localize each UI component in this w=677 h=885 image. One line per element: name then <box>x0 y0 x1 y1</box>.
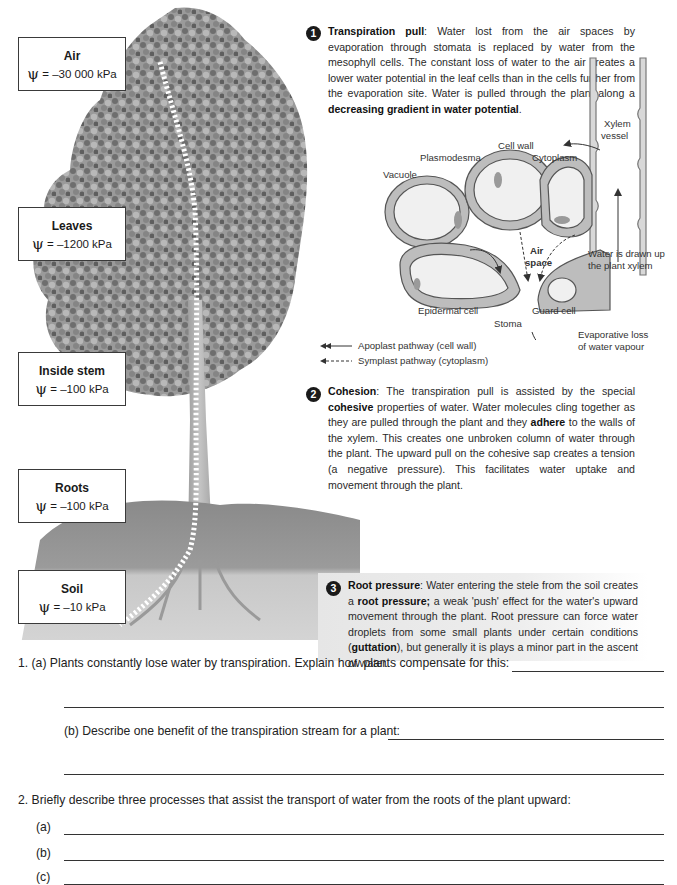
dashed-arrow-icon <box>320 357 352 365</box>
guard-cell-label: Guard cell <box>532 305 576 317</box>
soil-label: Soil <box>19 582 125 596</box>
tree-illustration <box>0 0 360 640</box>
cohesion-heading: Cohesion <box>328 385 376 397</box>
psi-symbol: ψ <box>27 65 39 83</box>
psi-symbol: ψ <box>35 380 47 398</box>
soil-potential-box: Soil ψ = –10 kPa <box>18 570 126 624</box>
psi-symbol: ψ <box>32 235 44 253</box>
psi-symbol: ψ <box>35 497 47 515</box>
question-2b-label: (b) <box>36 846 51 860</box>
leaf-cell-diagram <box>370 50 677 340</box>
answer-line-2a[interactable] <box>64 834 664 835</box>
section-1-badge: 1 <box>306 26 321 41</box>
air-potential-value: = –30 000 kPa <box>42 68 117 80</box>
stoma-label: Stoma <box>494 318 522 330</box>
evaporative-loss-label-line2: of water vapour <box>578 341 644 353</box>
legend-symplast: Symplast pathway (cytoplasm) <box>320 355 488 366</box>
xylem-label-line2: vessel <box>601 130 628 142</box>
psi-symbol: ψ <box>38 598 50 616</box>
roots-potential-box: Roots ψ = –100 kPa <box>18 469 126 523</box>
air-space-label-line2: space <box>525 257 552 269</box>
section-3-badge: 3 <box>326 581 341 596</box>
xylem-label-line1: Xylem <box>604 118 631 130</box>
legend-apoplast: Apoplast pathway (cell wall) <box>320 340 476 351</box>
stem-potential-value: = –100 kPa <box>50 383 109 395</box>
question-2: 2. Briefly describe three processes that… <box>18 793 571 807</box>
section-2-badge: 2 <box>306 387 321 402</box>
answer-line-1b-1[interactable] <box>388 739 664 740</box>
air-label: Air <box>19 49 125 63</box>
leaves-potential-box: Leaves ψ = –1200 kPa <box>18 207 126 261</box>
soil-potential-value: = –10 kPa <box>53 601 105 613</box>
question-1a: 1. (a) Plants constantly lose water by t… <box>18 656 509 670</box>
question-2c-label: (c) <box>36 870 50 884</box>
question-2a-label: (a) <box>36 820 51 834</box>
answer-line-1b-2[interactable] <box>64 774 664 775</box>
evaporative-loss-label-line1: Evaporative loss <box>578 329 648 341</box>
answer-line-1a-2[interactable] <box>64 707 664 708</box>
transpiration-pull-heading: Transpiration pull <box>328 25 424 37</box>
air-space-label-line1: Air <box>530 245 543 257</box>
cytoplasm-label: Cytoplasm <box>532 152 577 164</box>
stem-label: Inside stem <box>19 364 125 378</box>
answer-line-1a-1[interactable] <box>512 671 664 672</box>
answer-line-2b[interactable] <box>64 860 664 861</box>
air-potential-box: Air ψ = –30 000 kPa <box>18 37 126 91</box>
cell-wall-label: Cell wall <box>498 140 534 152</box>
leaves-potential-value: = –1200 kPa <box>47 238 112 250</box>
roots-label: Roots <box>19 481 125 495</box>
vacuole-label: Vacuole <box>383 169 417 181</box>
cohesion-paragraph: Cohesion: The transpiration pull is assi… <box>328 384 635 493</box>
root-pressure-heading: Root pressure <box>348 579 420 591</box>
solid-arrow-icon <box>320 342 352 350</box>
symplast-arrow <box>520 232 528 280</box>
roots-potential-value: = –100 kPa <box>50 500 109 512</box>
question-1b: (b) Describe one benefit of the transpir… <box>64 724 400 738</box>
water-drawn-label-line1: Water is drawn up <box>588 248 665 260</box>
epidermal-cell-label: Epidermal cell <box>418 305 478 317</box>
leaves-label: Leaves <box>19 219 125 233</box>
water-drawn-label-line2: the plant xylem <box>588 260 653 272</box>
plasmodesma-label: Plasmodesma <box>420 152 481 164</box>
stem-potential-box: Inside stem ψ = –100 kPa <box>18 352 126 406</box>
